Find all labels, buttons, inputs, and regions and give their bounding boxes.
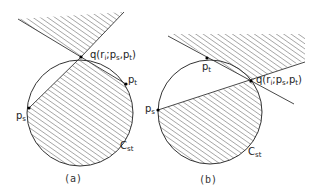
label-q-b: q(ri;ps,pt) <box>256 75 302 87</box>
label-ps-a: ps <box>16 111 26 123</box>
caption-a: (a) <box>64 173 82 184</box>
label-pt-b: pt <box>202 62 211 74</box>
label-q-a: q(ri;ps,pt) <box>90 50 136 62</box>
feasible-region-b <box>150 81 270 180</box>
point-ps-b <box>156 108 159 111</box>
wedge-region-b <box>168 34 305 81</box>
label-cst-a: Cst <box>120 141 133 153</box>
caption-b: (b) <box>199 174 217 185</box>
label-pt-a: pt <box>128 75 137 87</box>
point-pt-b <box>205 56 208 59</box>
figure-a <box>10 12 150 180</box>
label-ps-b: ps <box>145 104 155 116</box>
diagram-canvas <box>0 0 315 195</box>
point-ps-a <box>27 106 30 109</box>
point-q-a <box>79 55 82 58</box>
figure-b <box>150 34 305 180</box>
point-q-b <box>249 79 252 82</box>
label-cst-b: Cst <box>248 147 261 159</box>
